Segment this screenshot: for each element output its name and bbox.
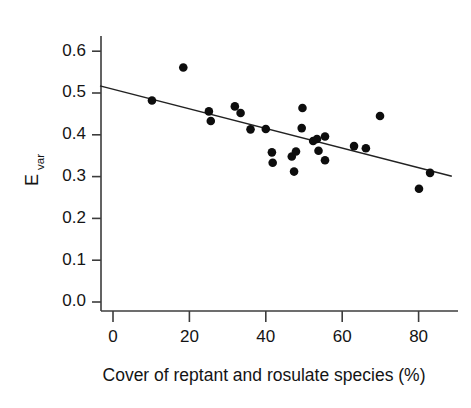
data-point	[362, 144, 371, 153]
y-tick-label: 0.3	[62, 166, 86, 185]
data-point	[321, 156, 330, 165]
data-point	[298, 104, 307, 113]
data-point	[268, 159, 277, 168]
y-axis-title-subscript: var	[34, 154, 46, 170]
y-tick-label: 0.2	[62, 208, 86, 227]
data-point	[376, 112, 385, 121]
y-tick-label: 0.4	[62, 124, 86, 143]
x-tick-label: 0	[108, 327, 117, 346]
data-point	[426, 169, 435, 178]
y-axis-title: E var	[22, 154, 46, 186]
data-point	[246, 125, 255, 134]
y-tick-label: 0.6	[62, 41, 86, 60]
x-tick-label: 40	[256, 327, 275, 346]
data-point	[313, 135, 322, 144]
scatter-plot: 0.00.10.20.30.40.50.6 020406080 E var Co…	[0, 0, 471, 408]
data-point	[297, 124, 306, 133]
y-axis-ticks: 0.00.10.20.30.40.50.6	[62, 41, 101, 311]
figure-container: 0.00.10.20.30.40.50.6 020406080 E var Co…	[0, 0, 471, 408]
y-tick-label: 0.1	[62, 250, 86, 269]
x-axis-title: Cover of reptant and rosulate species (%…	[103, 365, 426, 385]
data-point	[206, 117, 215, 126]
data-point	[268, 148, 277, 157]
x-tick-label: 60	[333, 327, 352, 346]
data-point	[292, 147, 301, 156]
data-point	[290, 167, 299, 176]
axes-group	[101, 36, 458, 311]
y-tick-label: 0.5	[62, 82, 86, 101]
data-point	[205, 107, 214, 116]
x-tick-label: 80	[409, 327, 428, 346]
data-point	[350, 142, 359, 151]
x-tick-label: 20	[180, 327, 199, 346]
data-point	[179, 63, 188, 72]
data-point	[148, 96, 157, 105]
data-point	[321, 132, 330, 141]
data-point	[314, 146, 323, 155]
data-points-group	[148, 63, 435, 193]
data-point	[236, 109, 245, 118]
data-point	[231, 102, 240, 111]
data-point	[415, 184, 424, 193]
y-tick-label: 0.0	[62, 291, 86, 310]
y-axis-title-main: E	[22, 174, 42, 186]
x-axis-ticks: 020406080	[108, 311, 428, 346]
data-point	[262, 125, 271, 134]
